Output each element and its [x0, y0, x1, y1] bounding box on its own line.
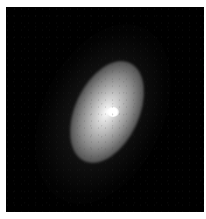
- background-noise: [6, 7, 204, 212]
- galaxy-image-panel: [6, 7, 204, 212]
